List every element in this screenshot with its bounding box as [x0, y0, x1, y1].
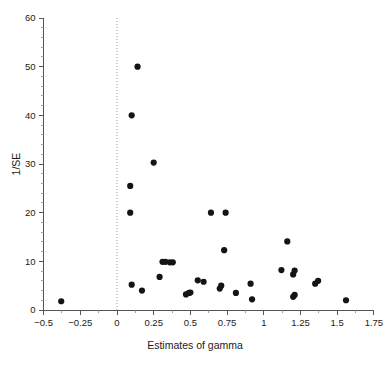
scatter-plot-canvas: −0.5−0.2500.250.50.7511.251.51.750102030…: [0, 0, 390, 368]
data-point: [223, 210, 229, 216]
data-point: [208, 210, 214, 216]
x-axis-tick-label: 1.75: [365, 317, 384, 328]
data-points-group: [58, 64, 349, 305]
y-axis-tick-label: 60: [25, 12, 36, 23]
x-axis-tick-label: 1.25: [291, 317, 310, 328]
x-axis-tick-label: 0.5: [184, 317, 197, 328]
y-axis-tick-label: 50: [25, 61, 36, 72]
x-axis-tick-label: 1.5: [331, 317, 344, 328]
data-point: [129, 282, 135, 288]
data-point: [156, 274, 162, 280]
data-point: [127, 183, 133, 189]
data-point: [151, 159, 157, 165]
data-point: [247, 281, 253, 287]
y-axis-tick-label: 0: [30, 304, 35, 315]
x-axis-tick-label: −0.25: [68, 317, 92, 328]
funnel-plot-figure: −0.5−0.2500.250.50.7511.251.51.750102030…: [0, 0, 390, 368]
data-point: [218, 283, 224, 289]
data-point: [201, 279, 207, 285]
data-point: [170, 259, 176, 265]
x-axis-tick-label: 0: [114, 317, 119, 328]
x-axis-tick-label: 0.75: [218, 317, 237, 328]
y-axis-tick-label: 40: [25, 110, 36, 121]
data-point: [233, 290, 239, 296]
x-axis-tick-label: 0.25: [144, 317, 163, 328]
y-axis-title: 1/SE: [10, 153, 22, 176]
data-point: [249, 296, 255, 302]
y-axis-tick-label: 10: [25, 256, 36, 267]
x-axis-title: Estimates of gamma: [147, 339, 243, 351]
data-point: [129, 112, 135, 118]
data-point: [139, 287, 145, 293]
data-point: [284, 238, 290, 244]
data-point: [343, 297, 349, 303]
x-axis-tick-label: 1: [261, 317, 266, 328]
data-point: [221, 247, 227, 253]
x-axis-tick-label: −0.5: [34, 317, 53, 328]
data-point: [134, 64, 140, 70]
data-point: [58, 298, 64, 304]
data-point: [292, 292, 298, 298]
axes-group: [39, 18, 374, 315]
data-point: [195, 277, 201, 283]
y-axis-tick-label: 20: [25, 207, 36, 218]
data-point: [292, 267, 298, 273]
y-axis-tick-label: 30: [25, 158, 36, 169]
data-point: [187, 289, 193, 295]
data-point: [127, 210, 133, 216]
data-point: [315, 278, 321, 284]
data-point: [278, 267, 284, 273]
